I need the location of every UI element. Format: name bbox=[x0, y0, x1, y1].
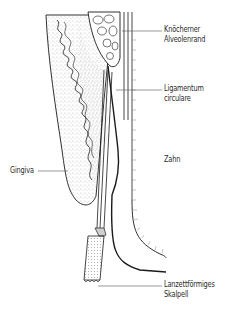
label-line: Alveolenrand bbox=[164, 35, 205, 45]
label-tooth: Zahn bbox=[164, 155, 180, 165]
label-line: Skalpell bbox=[164, 290, 215, 300]
dental-diagram: Knöcherner Alveolenrand Ligamentum circu… bbox=[0, 0, 238, 316]
label-line: Ligamentum bbox=[164, 84, 204, 94]
label-scalpel: Lanzettförmiges Skalpell bbox=[164, 280, 215, 299]
label-alveolar-bone: Knöcherner Alveolenrand bbox=[164, 25, 205, 44]
label-line: Lanzettförmiges bbox=[164, 280, 215, 290]
label-ligament: Ligamentum circulare bbox=[164, 84, 204, 103]
label-gingiva: Gingiva bbox=[10, 166, 34, 176]
label-line: circulare bbox=[164, 94, 204, 104]
label-line: Knöcherner bbox=[164, 25, 205, 35]
label-line: Zahn bbox=[164, 155, 180, 165]
diagram-artwork bbox=[0, 0, 238, 316]
label-line: Gingiva bbox=[10, 166, 34, 176]
